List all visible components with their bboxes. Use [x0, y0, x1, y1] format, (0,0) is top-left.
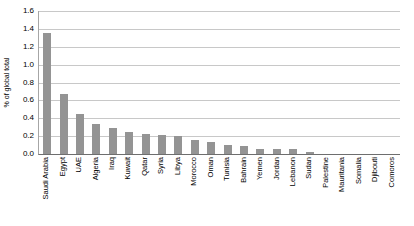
- x-label-slot: Djibouti: [367, 157, 383, 225]
- bar-slot[interactable]: [236, 11, 252, 154]
- y-axis-tick-label: 1.4: [23, 25, 34, 33]
- bar-slot[interactable]: [302, 11, 318, 154]
- bar-lebanon[interactable]: [289, 149, 297, 154]
- x-axis-tick-label: Iraq: [108, 157, 116, 170]
- x-axis-tick-label: Algeria: [92, 157, 100, 180]
- x-axis-tick-label: UAE: [75, 157, 83, 172]
- x-axis-tick-label: Qatar: [141, 157, 149, 176]
- x-axis-tick-label: Djibouti: [371, 157, 379, 182]
- x-label-slot: Jordan: [268, 157, 284, 225]
- bar-slot[interactable]: [137, 11, 153, 154]
- x-axis-tick-labels: Saudi ArabiaEgyptUAEAlgeriaIraqKuwaitQat…: [38, 157, 400, 225]
- bar-bahrain[interactable]: [240, 146, 248, 154]
- bar-jordan[interactable]: [273, 149, 281, 154]
- bar-slot[interactable]: [187, 11, 203, 154]
- x-label-slot: Algeria: [87, 157, 103, 225]
- bar-yemen[interactable]: [256, 149, 264, 154]
- y-axis-title: % of global total: [1, 34, 13, 130]
- x-axis-tick-label: Morocco: [190, 157, 198, 186]
- x-label-slot: Mauritania: [334, 157, 350, 225]
- bar-saudi-arabia[interactable]: [43, 33, 51, 154]
- y-axis-title-text: % of global total: [4, 57, 11, 107]
- bar-uae[interactable]: [76, 114, 84, 154]
- x-label-slot: Bahrain: [235, 157, 251, 225]
- bar-qatar[interactable]: [142, 134, 150, 154]
- x-label-slot: Palestine: [318, 157, 334, 225]
- x-label-slot: Egypt: [54, 157, 70, 225]
- x-axis-tick-label: Jordan: [273, 157, 281, 180]
- bar-slot[interactable]: [39, 11, 55, 154]
- bar-slot[interactable]: [105, 11, 121, 154]
- bar-slot[interactable]: [334, 11, 350, 154]
- bar-oman[interactable]: [207, 142, 215, 155]
- bar-libya[interactable]: [174, 136, 182, 154]
- bar-slot[interactable]: [121, 11, 137, 154]
- bar-slot[interactable]: [252, 11, 268, 154]
- bar-slot[interactable]: [154, 11, 170, 154]
- x-label-slot: Libya: [170, 157, 186, 225]
- x-label-slot: Morocco: [186, 157, 202, 225]
- x-label-slot: Sudan: [301, 157, 317, 225]
- bar-slot[interactable]: [269, 11, 285, 154]
- y-axis-tick-label: 0.4: [23, 114, 34, 122]
- x-axis-tick-label: Kuwait: [124, 157, 132, 180]
- x-label-slot: Oman: [203, 157, 219, 225]
- bar-slot[interactable]: [285, 11, 301, 154]
- y-axis-tick-label: 1.2: [23, 43, 34, 51]
- x-label-slot: Saudi Arabia: [38, 157, 54, 225]
- x-label-slot: Comoros: [384, 157, 400, 225]
- bar-egypt[interactable]: [60, 94, 68, 154]
- x-axis-tick-label: Tunisia: [223, 157, 231, 181]
- x-label-slot: UAE: [71, 157, 87, 225]
- x-axis-tick-label: Palestine: [322, 157, 330, 188]
- bar-iraq[interactable]: [109, 128, 117, 154]
- x-axis-tick-label: Syria: [157, 157, 165, 174]
- y-axis-tick-label: 1.0: [23, 61, 34, 69]
- bar-algeria[interactable]: [92, 124, 100, 154]
- x-label-slot: Somalia: [351, 157, 367, 225]
- x-axis-tick-label: Bahrain: [240, 157, 248, 183]
- x-axis-tick-label: Mauritania: [338, 157, 346, 192]
- y-axis-tick-label: 0.6: [23, 96, 34, 104]
- x-axis-tick-label: Egypt: [59, 157, 67, 176]
- plot-area: [38, 11, 400, 155]
- x-label-slot: Syria: [153, 157, 169, 225]
- bar-slot[interactable]: [72, 11, 88, 154]
- x-axis-tick-label: Libya: [174, 157, 182, 175]
- x-label-slot: Lebanon: [285, 157, 301, 225]
- x-axis-tick-label: Yemen: [256, 157, 264, 180]
- bar-slot[interactable]: [55, 11, 71, 154]
- bar-slot[interactable]: [219, 11, 235, 154]
- bar-sudan[interactable]: [306, 152, 314, 154]
- bar-slot[interactable]: [203, 11, 219, 154]
- y-axis-tick-label: 0.8: [23, 79, 34, 87]
- bar-slot[interactable]: [367, 11, 383, 154]
- bar-syria[interactable]: [158, 135, 166, 154]
- x-axis-tick-label: Saudi Arabia: [42, 157, 50, 200]
- y-axis-tick-label: 1.6: [23, 7, 34, 15]
- bar-series: [39, 11, 400, 154]
- x-axis-tick-label: Somalia: [355, 157, 363, 184]
- x-label-slot: Qatar: [137, 157, 153, 225]
- y-axis-tick-label: 0.2: [23, 132, 34, 140]
- bar-slot[interactable]: [88, 11, 104, 154]
- x-axis-tick-label: Sudan: [305, 157, 313, 179]
- x-label-slot: Iraq: [104, 157, 120, 225]
- x-label-slot: Yemen: [252, 157, 268, 225]
- bar-slot[interactable]: [384, 11, 400, 154]
- x-label-slot: Kuwait: [120, 157, 136, 225]
- bar-kuwait[interactable]: [125, 132, 133, 154]
- bar-morocco[interactable]: [191, 140, 199, 154]
- bar-chart: % of global total 1.61.41.21.00.80.60.40…: [0, 0, 414, 226]
- x-axis-tick-label: Oman: [207, 157, 215, 177]
- y-axis-tick-label: 0.0: [23, 150, 34, 158]
- bar-slot[interactable]: [170, 11, 186, 154]
- x-axis-tick-label: Lebanon: [289, 157, 297, 186]
- x-axis-tick-label: Comoros: [388, 157, 396, 187]
- x-label-slot: Tunisia: [219, 157, 235, 225]
- bar-slot[interactable]: [318, 11, 334, 154]
- bar-tunisia[interactable]: [224, 145, 232, 154]
- y-axis-tick-labels: 1.61.41.21.00.80.60.40.20.0: [14, 0, 36, 160]
- bar-slot[interactable]: [351, 11, 367, 154]
